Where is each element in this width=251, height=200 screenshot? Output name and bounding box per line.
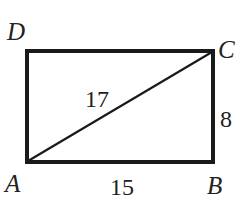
diagonal-ac xyxy=(28,52,212,161)
vertex-label-b: B xyxy=(207,172,222,199)
side-ab-length-label: 15 xyxy=(110,174,134,200)
side-bc-length-label: 8 xyxy=(220,106,232,132)
vertex-label-c: C xyxy=(218,36,235,63)
vertex-label-a: A xyxy=(3,170,21,197)
vertex-label-d: D xyxy=(6,18,25,45)
diagonal-length-label: 17 xyxy=(85,86,109,112)
rectangle-diagram: D C A B 17 8 15 xyxy=(0,0,251,200)
